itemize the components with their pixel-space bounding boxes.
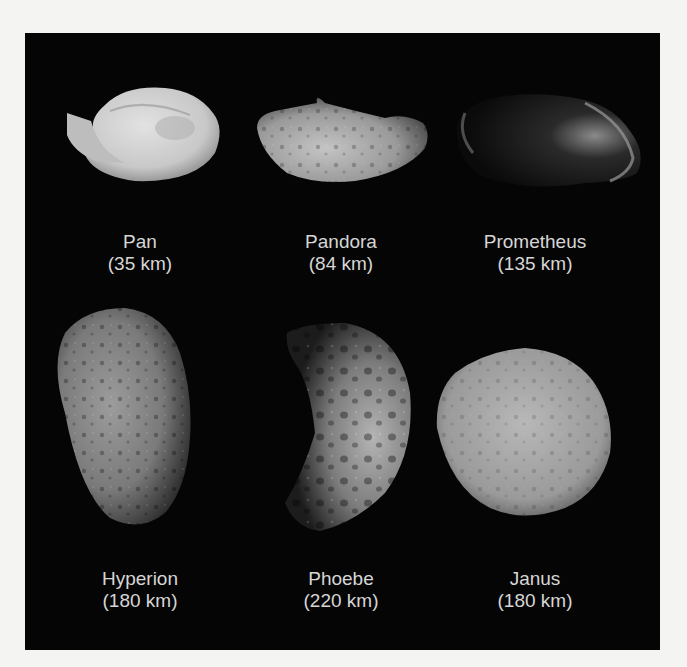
moon-phoebe-image [285,323,411,531]
moon-images [25,33,660,650]
moon-name: Janus [445,568,625,590]
moon-hyperion-image [58,308,191,524]
moon-diameter: (180 km) [50,590,230,612]
moons-figure-panel: Pan (35 km) Pandora (84 km) Prometheus (… [25,33,660,650]
moon-diameter: (220 km) [251,590,431,612]
moon-diameter: (180 km) [445,590,625,612]
moon-name: Prometheus [445,231,625,253]
moon-label-janus: Janus (180 km) [445,568,625,612]
moon-name: Hyperion [50,568,230,590]
moon-diameter: (84 km) [251,253,431,275]
moon-label-pandora: Pandora (84 km) [251,231,431,275]
moon-label-hyperion: Hyperion (180 km) [50,568,230,612]
moon-name: Phoebe [251,568,431,590]
moon-prometheus-image [457,94,641,186]
moon-pan-image [67,88,220,182]
moon-diameter: (35 km) [50,253,230,275]
moon-diameter: (135 km) [445,253,625,275]
moon-name: Pan [50,231,230,253]
moon-janus-image [437,348,611,516]
moon-label-phoebe: Phoebe (220 km) [251,568,431,612]
moon-name: Pandora [251,231,431,253]
moon-label-prometheus: Prometheus (135 km) [445,231,625,275]
moon-pandora-image [257,98,428,182]
moon-label-pan: Pan (35 km) [50,231,230,275]
